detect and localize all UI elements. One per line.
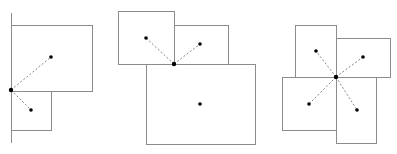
dashed-connector xyxy=(174,44,200,64)
dashed-connector xyxy=(309,77,336,104)
dashed-connector xyxy=(336,57,363,77)
diagram-canvas xyxy=(0,0,397,154)
rectangle xyxy=(175,26,229,65)
center-dot xyxy=(307,102,311,106)
center-dot xyxy=(144,36,148,40)
panel-3 xyxy=(283,26,391,144)
panel-2 xyxy=(119,12,256,145)
dashed-connector xyxy=(336,77,357,110)
center-dot xyxy=(198,42,202,46)
center-dot xyxy=(198,102,202,106)
dashed-connector xyxy=(11,57,51,90)
center-dot xyxy=(29,108,33,112)
dashed-connector xyxy=(146,38,174,64)
dashed-connector xyxy=(316,51,336,77)
dashed-connector xyxy=(11,90,31,110)
center-dot xyxy=(314,49,318,53)
panel-1 xyxy=(9,13,93,143)
hub-dot xyxy=(9,88,13,92)
hub-dot xyxy=(334,75,338,79)
center-dot xyxy=(355,108,359,112)
center-dot xyxy=(49,55,53,59)
center-dot xyxy=(361,55,365,59)
rectangle xyxy=(12,26,93,92)
hub-dot xyxy=(172,62,176,66)
